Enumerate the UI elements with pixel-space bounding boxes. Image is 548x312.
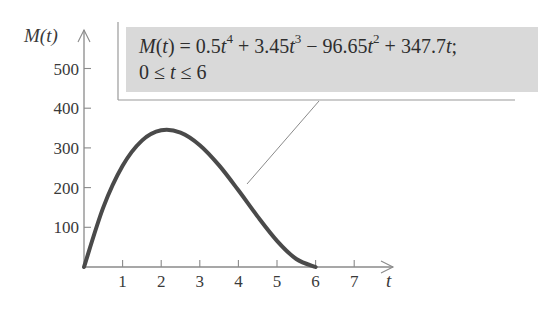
formula-exp: 2 (373, 31, 380, 46)
y-axis: 100200300400500 M(t) (23, 25, 91, 267)
y-tick-label: 100 (54, 218, 80, 237)
y-tick-label: 400 (54, 99, 80, 118)
formula-var: t (162, 35, 168, 57)
formula-term-1-coef: = 0.5 (175, 35, 221, 57)
x-tick-label: 3 (196, 272, 205, 291)
x-axis: 1234567 t (84, 260, 393, 291)
formula-line-2: 0 ≤ t ≤ 6 (139, 59, 538, 85)
formula-end: ; (451, 35, 457, 57)
formula-fn: M (139, 35, 156, 57)
x-tick-label: 6 (311, 272, 320, 291)
y-tick-label: 500 (54, 60, 80, 79)
annotation-leader-line (247, 101, 319, 184)
formula-exp: 4 (226, 31, 233, 46)
formula-exp: 3 (295, 31, 302, 46)
x-tick-label: 4 (234, 272, 243, 291)
x-axis-label: t (386, 270, 392, 291)
formula-var: t (289, 35, 295, 57)
curve-m-of-t (84, 130, 316, 267)
x-tick-label: 2 (157, 272, 166, 291)
y-tick-label: 300 (54, 139, 80, 158)
domain-lower: 0 ≤ (139, 61, 170, 83)
formula-term-4-coef: + 347.7 (380, 35, 446, 57)
formula-term-2-coef: + 3.45 (233, 35, 289, 57)
formula-term-3-coef: − 96.65 (301, 35, 367, 57)
formula-annotation-box: M(t) = 0.5t4 + 3.45t3 − 96.65t2 + 347.7t… (126, 27, 538, 92)
y-tick-label: 200 (54, 179, 80, 198)
x-tick-label: 7 (350, 272, 359, 291)
formula-line-1: M(t) = 0.5t4 + 3.45t3 − 96.65t2 + 347.7t… (139, 33, 538, 59)
y-axis-label: M(t) (23, 25, 58, 47)
x-tick-label: 1 (118, 272, 127, 291)
x-tick-label: 5 (273, 272, 282, 291)
domain-upper: ≤ 6 (176, 61, 207, 83)
